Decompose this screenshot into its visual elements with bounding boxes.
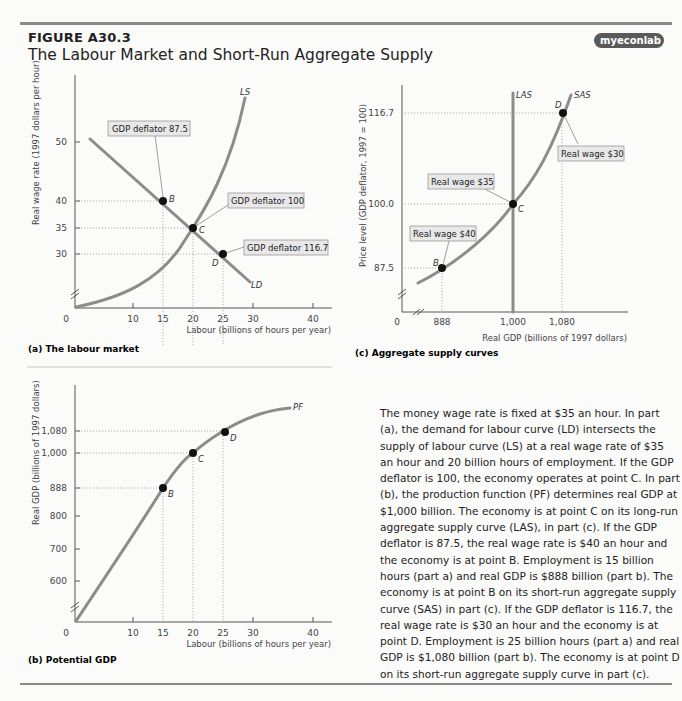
c-origin: 0 bbox=[394, 317, 400, 327]
a-callout-c-text: GDP deflator 100 bbox=[231, 196, 304, 206]
b-x-label: Labour (billions of hours per year) bbox=[186, 639, 331, 649]
b-pf-label: PF bbox=[293, 402, 303, 412]
a-callout-d-text: GDP deflator 116.7 bbox=[247, 243, 328, 253]
c-sas-label: SAS bbox=[574, 90, 591, 100]
a-ytick-30: 30 bbox=[56, 249, 68, 259]
b-point-b bbox=[159, 484, 167, 492]
c-caption: (c) Aggregate supply curves bbox=[355, 348, 498, 358]
b-ytick-600: 600 bbox=[50, 576, 67, 586]
b-point-c-label: C bbox=[198, 454, 204, 464]
a-xtick-15: 15 bbox=[157, 314, 168, 324]
a-xtick-40: 40 bbox=[307, 314, 319, 324]
panel-c-aggregate-supply: 116.7 100.0 87.5 0 888 1,000 1,080 Real … bbox=[355, 85, 628, 358]
c-point-d bbox=[559, 109, 567, 117]
c-callout-d-text: Real wage $30 bbox=[561, 149, 624, 159]
b-xtick-15: 15 bbox=[157, 628, 168, 638]
a-point-c bbox=[189, 224, 197, 232]
b-ytick-1000: 1,000 bbox=[41, 448, 67, 458]
b-point-d bbox=[221, 428, 229, 436]
b-ytick-1080: 1,080 bbox=[41, 426, 67, 436]
c-xtick-888: 888 bbox=[433, 317, 450, 327]
b-xtick-25: 25 bbox=[217, 628, 228, 638]
b-xtick-40: 40 bbox=[307, 628, 319, 638]
b-point-d-label: D bbox=[230, 433, 237, 443]
panel-a-labour-market: 50 40 35 30 0 10 15 20 25 30 40 Labour (… bbox=[27, 60, 332, 367]
a-point-c-label: C bbox=[199, 225, 205, 235]
c-callout-b-text: Real wage $40 bbox=[413, 229, 476, 239]
b-ytick-800: 800 bbox=[50, 511, 67, 521]
c-xtick-1000: 1,000 bbox=[500, 317, 526, 327]
a-ls-label: LS bbox=[240, 87, 251, 97]
a-xtick-10: 10 bbox=[127, 314, 139, 324]
c-point-b bbox=[438, 264, 446, 272]
a-y-label: Real wage rate (1997 dollars per hour) bbox=[31, 60, 41, 225]
c-point-d-label: D bbox=[555, 100, 562, 110]
b-y-label: Real GDP (billions of 1997 dollars) bbox=[31, 380, 41, 525]
b-xtick-10: 10 bbox=[127, 628, 139, 638]
b-ytick-888: 888 bbox=[50, 483, 67, 493]
c-callout-c-text: Real wage $35 bbox=[431, 177, 494, 187]
c-point-b-label: B bbox=[433, 258, 439, 268]
c-ytick-116-7: 116.7 bbox=[368, 108, 394, 118]
a-xtick-30: 30 bbox=[247, 314, 259, 324]
a-ytick-50: 50 bbox=[56, 137, 68, 147]
a-origin: 0 bbox=[63, 314, 69, 324]
panel-b-potential-gdp: 1,080 1,000 888 800 700 600 0 10 15 20 2… bbox=[28, 380, 332, 665]
a-ytick-35: 35 bbox=[56, 223, 67, 233]
a-point-b bbox=[159, 197, 167, 205]
a-callout-b-text: GDP deflator 87.5 bbox=[112, 124, 188, 134]
a-ld-label: LD bbox=[251, 280, 263, 290]
b-xtick-30: 30 bbox=[247, 628, 259, 638]
c-ytick-100: 100.0 bbox=[368, 199, 394, 209]
b-ytick-700: 700 bbox=[50, 544, 67, 554]
b-origin: 0 bbox=[63, 628, 69, 638]
c-las-label: LAS bbox=[516, 90, 533, 100]
b-point-c bbox=[189, 449, 197, 457]
figure-description: The money wage rate is fixed at $35 an h… bbox=[380, 405, 680, 682]
bottom-rule bbox=[20, 683, 672, 685]
c-xtick-1080: 1,080 bbox=[549, 317, 575, 327]
a-ytick-40: 40 bbox=[56, 196, 68, 206]
c-y-label: Price level (GDP deflator, 1997 = 100) bbox=[358, 104, 368, 267]
c-ytick-87-5: 87.5 bbox=[374, 263, 394, 273]
a-point-d-label: D bbox=[212, 258, 219, 268]
a-caption: (a) The labour market bbox=[28, 344, 140, 354]
a-point-d bbox=[219, 250, 227, 258]
c-point-c-label: C bbox=[518, 204, 524, 214]
c-point-c bbox=[509, 200, 517, 208]
b-point-b-label: B bbox=[168, 489, 174, 499]
a-xtick-20: 20 bbox=[187, 314, 199, 324]
a-point-b-label: B bbox=[169, 194, 175, 204]
c-x-label: Real GDP (billions of 1997 dollars) bbox=[482, 333, 627, 343]
b-xtick-20: 20 bbox=[187, 628, 199, 638]
b-caption: (b) Potential GDP bbox=[28, 655, 117, 665]
b-pf-curve bbox=[76, 408, 290, 621]
a-x-label: Labour (billions of hours per year) bbox=[186, 325, 331, 335]
